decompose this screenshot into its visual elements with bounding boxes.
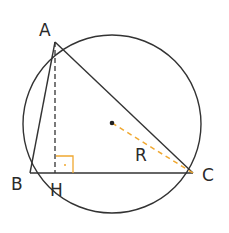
center-point — [110, 121, 115, 126]
label-b: B — [11, 174, 23, 194]
radius-oc — [112, 123, 193, 173]
triangle-circumcircle-diagram: A B H C R — [0, 0, 229, 233]
right-angle-dot — [64, 164, 66, 166]
label-a: A — [39, 20, 51, 40]
label-r: R — [135, 145, 147, 165]
label-h: H — [50, 180, 63, 200]
side-ab — [30, 42, 55, 173]
label-c: C — [202, 165, 214, 185]
side-ac — [55, 42, 193, 173]
